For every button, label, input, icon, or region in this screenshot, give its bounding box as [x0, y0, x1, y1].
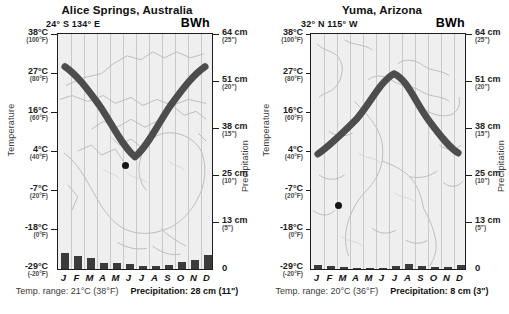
- temp-tick-27-right: 27°C (80°F): [283, 67, 303, 83]
- temp-tick-38-left: 38°C (100°F): [26, 28, 48, 44]
- temp-tick-16-right: 16°C (60°F): [283, 106, 303, 122]
- bar-jan: [314, 265, 322, 269]
- month-label: A: [349, 272, 362, 283]
- climate-code-left: BWh: [181, 16, 210, 30]
- bar-mar: [87, 258, 95, 269]
- precip-tick-51-right: 51 cm (20"): [475, 75, 501, 91]
- precipitation-axis-right: Precipitation 64 cm (25") 51 cm (20") 38…: [466, 33, 509, 270]
- month-label: J: [375, 272, 388, 283]
- climate-code-right: BWh: [436, 16, 465, 30]
- temperature-axis-title-left: Temperature: [6, 88, 16, 172]
- month-label: D: [200, 272, 213, 283]
- precip-tick-38-left: 38 cm (15"): [222, 122, 248, 138]
- temp-tick-27-left: 27°C (80°F): [28, 67, 48, 83]
- month-label: J: [57, 272, 70, 283]
- month-label: F: [70, 272, 83, 283]
- climograph-panel-yuma: Yuma, Arizona 32° N 115° W BWh Temperatu…: [255, 0, 509, 314]
- month-label: M: [336, 272, 349, 283]
- month-label: J: [122, 272, 135, 283]
- precip-tick-25-right: 25 cm (10"): [475, 169, 501, 185]
- month-label: S: [414, 272, 427, 283]
- precip-total-right: Precipitation: 8 cm (3"): [390, 286, 488, 296]
- temp-tick-minus29-left: -29°C (-20°F): [25, 262, 48, 278]
- precip-tick-51-left: 51 cm (20"): [222, 75, 248, 91]
- summary-footer-right: Temp. range: 20°C (36°F) Precipitation: …: [255, 286, 509, 300]
- bar-feb: [327, 266, 335, 270]
- climograph-panel-alice-springs: Alice Springs, Australia 24° S 134° E BW…: [0, 0, 254, 314]
- month-label: D: [453, 272, 466, 283]
- bar-may: [113, 263, 121, 269]
- precipitation-bars-left: [58, 223, 212, 269]
- month-label: M: [109, 272, 122, 283]
- bar-jun: [379, 268, 387, 269]
- precip-tick-64-right: 64 cm (25"): [475, 28, 501, 44]
- temp-range-left: Temp. range: 21°C (38°F): [16, 286, 119, 296]
- bar-aug: [405, 264, 413, 269]
- bar-sep: [165, 265, 173, 269]
- temperature-axis-left: Temperature 38°C (100°F) 27°C (80°F) 16°…: [0, 33, 57, 270]
- precip-tick-25-left: 25 cm (10"): [222, 169, 248, 185]
- summary-footer-left: Temp. range: 21°C (38°F) Precipitation: …: [0, 286, 254, 300]
- temp-tick-minus18-right: -18°C (0°F): [280, 223, 303, 239]
- precipitation-bars-right: [311, 223, 465, 269]
- month-label: N: [440, 272, 453, 283]
- precip-tick-0-left: 0: [222, 263, 227, 273]
- temp-tick-38-right: 38°C (100°F): [281, 28, 303, 44]
- page-title-right: Yuma, Arizona: [255, 4, 509, 16]
- temp-tick-minus29-right: -29°C (-20°F): [280, 262, 303, 278]
- temp-tick-4-right: 4°C (40°F): [285, 145, 303, 161]
- bar-apr: [353, 268, 361, 269]
- bar-jun: [126, 264, 134, 270]
- plot-area-right: [310, 33, 466, 270]
- bar-nov: [191, 260, 199, 269]
- precip-tick-38-right: 38 cm (15"): [475, 122, 501, 138]
- bar-oct: [431, 267, 439, 270]
- month-labels-left: J F M A M J J A S O N D: [57, 272, 213, 285]
- month-label: M: [83, 272, 96, 283]
- bar-nov: [444, 267, 452, 270]
- month-label: O: [174, 272, 187, 283]
- bar-jul: [139, 266, 147, 269]
- precipitation-axis-left: Precipitation 64 cm (25") 51 cm (20") 38…: [213, 33, 254, 270]
- month-label: N: [187, 272, 200, 283]
- bar-jul: [392, 266, 400, 269]
- bar-sep: [418, 266, 426, 270]
- month-label: J: [388, 272, 401, 283]
- month-label: F: [323, 272, 336, 283]
- temperature-axis-title-right: Temperature: [261, 88, 271, 172]
- precip-tick-64-left: 64 cm (25"): [222, 28, 248, 44]
- month-label: A: [401, 272, 414, 283]
- bar-aug: [152, 266, 160, 270]
- bar-apr: [100, 263, 108, 270]
- bar-mar: [340, 267, 348, 270]
- bar-dec: [204, 255, 212, 269]
- month-label: A: [148, 272, 161, 283]
- precip-total-left: Precipitation: 28 cm (11"): [130, 286, 238, 296]
- precip-tick-0-right: 0: [475, 263, 480, 273]
- temperature-axis-right: Temperature 38°C (100°F) 27°C (80°F) 16°…: [255, 33, 312, 270]
- bar-jan: [61, 253, 69, 269]
- month-label: S: [161, 272, 174, 283]
- temp-tick-16-left: 16°C (60°F): [28, 106, 48, 122]
- temp-tick-minus18-left: -18°C (0°F): [25, 223, 48, 239]
- month-label: J: [310, 272, 323, 283]
- bar-feb: [74, 256, 82, 269]
- bar-oct: [178, 262, 186, 269]
- month-label: O: [427, 272, 440, 283]
- bar-may: [366, 268, 374, 269]
- month-label: M: [362, 272, 375, 283]
- month-label: A: [96, 272, 109, 283]
- temp-tick-4-left: 4°C (40°F): [30, 145, 48, 161]
- temp-range-right: Temp. range: 20°C (36°F): [275, 286, 378, 296]
- plot-area-left: [57, 33, 213, 270]
- temp-tick-minus7-right: -7°C (20°F): [285, 184, 303, 200]
- coordinates-right: 32° N 115° W: [301, 19, 358, 29]
- precip-tick-13-left: 13 cm (5"): [222, 216, 248, 232]
- page-title-left: Alice Springs, Australia: [0, 4, 254, 16]
- precip-tick-13-right: 13 cm (5"): [475, 216, 501, 232]
- coordinates-left: 24° S 134° E: [46, 19, 100, 29]
- month-label: J: [135, 272, 148, 283]
- climate-graph-sheet: Alice Springs, Australia 24° S 134° E BW…: [0, 0, 509, 314]
- bar-dec: [457, 265, 465, 269]
- temp-tick-minus7-left: -7°C (20°F): [30, 184, 48, 200]
